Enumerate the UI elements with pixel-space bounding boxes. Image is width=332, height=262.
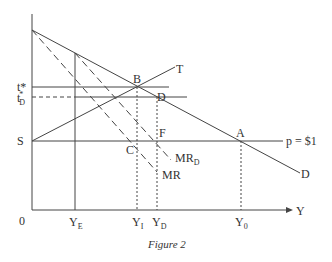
point-c-label: C [126, 143, 134, 157]
t-curve-label: T [176, 62, 184, 76]
x-axis-arrow-icon [286, 207, 293, 213]
s-label: S [17, 134, 24, 148]
point-d-label: D [157, 90, 166, 104]
figure-caption: Figure 2 [147, 238, 186, 250]
y-0-label: Y0 [235, 215, 248, 231]
point-a-label: A [236, 126, 245, 140]
t-curve [32, 67, 175, 141]
mr-curve-label: MR [162, 168, 181, 182]
x-axis-label: Y [296, 204, 305, 218]
point-b-label: B [133, 72, 141, 86]
y-i-label: YI [132, 215, 144, 231]
demand-curve-label: D [301, 167, 310, 181]
economics-diagram: t* t*D S 0 Y YE YI YD Y0 B D F C A T D p… [0, 0, 332, 262]
mr-curve [32, 30, 157, 172]
origin-label: 0 [19, 214, 25, 228]
point-f-label: F [159, 126, 166, 140]
mr-d-curve-label: MRD [175, 151, 200, 167]
demand-curve [32, 30, 300, 173]
y-d-label: YD [152, 215, 167, 231]
y-e-label: YE [69, 215, 83, 231]
price-line-label: p = $1 [286, 134, 317, 148]
